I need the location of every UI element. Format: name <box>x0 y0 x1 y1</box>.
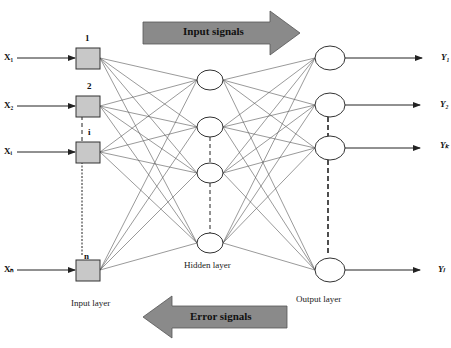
output-node-k <box>315 136 345 160</box>
output-label-y2: Y₂ <box>440 99 449 109</box>
hidden-node-2 <box>197 117 223 137</box>
input-signals-label: Input signals <box>183 25 244 37</box>
input-hidden-connections <box>100 58 197 270</box>
network-diagram <box>0 0 451 348</box>
output-nodes <box>315 46 345 282</box>
input-node-index-n: n <box>84 251 89 261</box>
output-label-y1: Y₁ <box>441 52 450 62</box>
input-label-x1: X₁ <box>4 52 13 62</box>
hidden-node-4 <box>197 233 223 253</box>
hidden-layer-label: Hidden layer <box>184 260 231 270</box>
hidden-output-connections <box>223 58 315 270</box>
input-label-x2: X₂ <box>4 100 13 110</box>
input-node-2 <box>76 96 100 117</box>
output-arrows <box>345 58 422 270</box>
input-layer-label: Input layer <box>71 298 110 308</box>
hidden-node-3 <box>197 163 223 183</box>
input-node-index-1: 1 <box>85 33 90 43</box>
input-label-xn: Xₙ <box>4 264 15 274</box>
error-signals-label: Error signals <box>190 310 252 322</box>
output-label-yl: Yₗ <box>438 264 445 274</box>
input-node-index-2: 2 <box>87 81 92 91</box>
output-node-2 <box>315 93 345 117</box>
input-node-i <box>76 142 100 163</box>
hidden-node-1 <box>197 70 223 90</box>
input-node-1 <box>76 48 100 69</box>
input-arrows <box>17 58 75 270</box>
output-layer-label: Output layer <box>296 294 341 304</box>
input-node-n <box>76 260 100 281</box>
output-node-1 <box>315 46 345 70</box>
input-node-index-i: i <box>88 127 91 137</box>
output-node-l <box>315 258 345 282</box>
input-label-xi: Xᵢ <box>4 146 12 156</box>
output-label-yk: Yₖ <box>440 140 450 150</box>
